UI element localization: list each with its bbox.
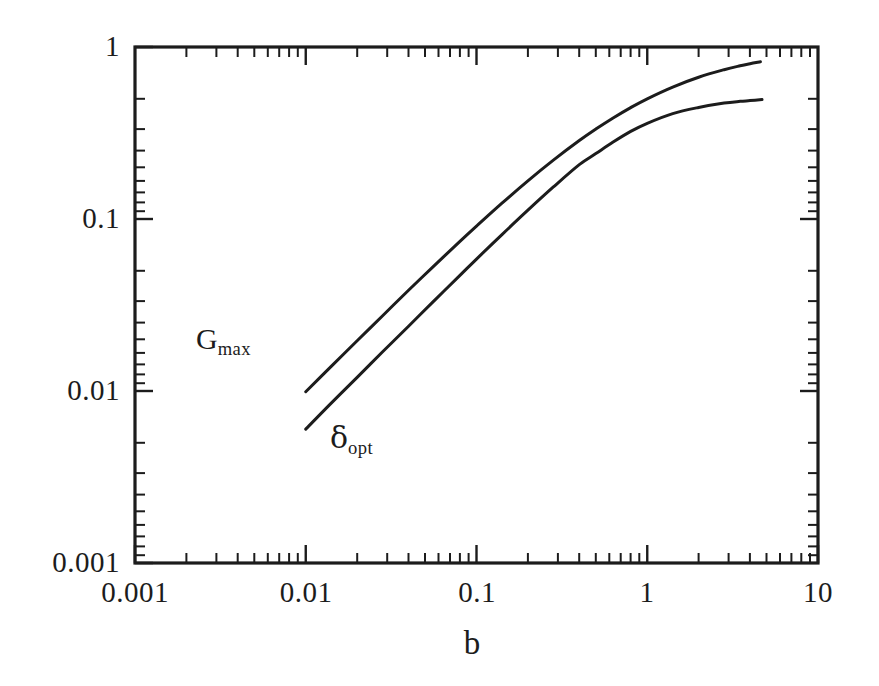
y-axis-ticks-left [135,47,153,563]
figure-canvas: 1 0.1 0.01 0.001 0.001 0.01 0.1 1 10 b G… [0,0,879,686]
x-axis-title: b [412,625,532,662]
curve-label-gmax-base: G [196,322,218,355]
y-tick-label-0-001: 0.001 [0,546,120,579]
x-tick-label-0-01: 0.01 [226,576,386,609]
x-tick-label-1: 1 [567,576,727,609]
curve-label-delta-opt: δopt [330,420,373,455]
curve-label-gmax-sub: max [218,338,251,359]
curve-label-delta-sub: opt [348,437,373,458]
x-tick-label-0-1: 0.1 [397,576,557,609]
y-tick-label-0-1: 0.1 [20,202,120,235]
y-tick-label-1: 1 [48,30,120,63]
curve-label-delta-base: δ [330,420,348,455]
curve-gmax [306,62,761,392]
x-axis-ticks-bottom [135,545,818,563]
x-tick-label-0-001: 0.001 [55,576,215,609]
x-axis-ticks-top [186,47,810,65]
plot-frame [135,47,818,563]
data-curves [306,62,762,429]
curve-delta-opt [306,100,762,430]
x-tick-label-10: 10 [738,576,879,609]
y-tick-label-0-01: 0.01 [6,374,120,407]
curve-label-gmax: Gmax [196,322,251,356]
y-axis-ticks-right [800,99,818,555]
